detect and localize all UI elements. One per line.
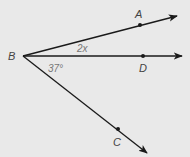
label-c: C: [113, 136, 121, 148]
angle-label-abd: 2x: [76, 43, 89, 54]
label-b: B: [8, 50, 15, 62]
label-a: A: [134, 8, 142, 20]
angle-label-dbc: 37°: [48, 63, 63, 74]
angle-diagram: B A D C 2x 37°: [0, 0, 190, 157]
point-c: [116, 127, 120, 131]
label-d: D: [139, 62, 147, 74]
background: [0, 0, 190, 157]
point-a: [138, 23, 142, 27]
point-d: [141, 54, 145, 58]
